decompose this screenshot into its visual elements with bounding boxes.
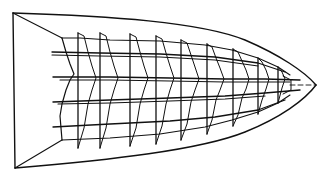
transom-line	[13, 13, 15, 168]
top-diagonal	[13, 13, 62, 38]
station-5-frame	[156, 36, 174, 144]
station-10-frame	[278, 67, 285, 103]
stations	[60, 33, 291, 148]
station-2-frame	[78, 33, 96, 148]
hull-diagram	[0, 0, 331, 178]
stringer-bottom-edge	[62, 95, 290, 140]
hull-outline	[13, 13, 316, 168]
stringer-1b	[52, 55, 258, 66]
station-3-frame	[100, 33, 118, 148]
station-1	[60, 38, 74, 140]
stringer-top-edge	[62, 38, 290, 75]
station-4-frame	[130, 34, 148, 146]
hull-drawing	[0, 0, 331, 178]
